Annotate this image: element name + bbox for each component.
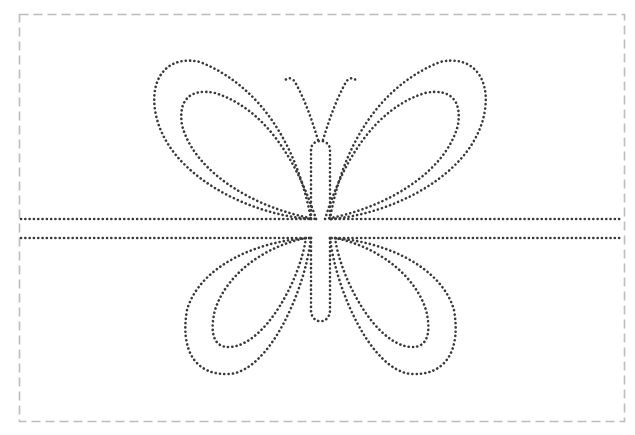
- lower-right-wing-inner: [335, 238, 428, 347]
- lower-left-wing-inner: [213, 238, 306, 347]
- lower-left-wing-outer: [185, 238, 311, 374]
- upper-left-wing-outer: [154, 61, 311, 219]
- left-antenna: [285, 78, 318, 140]
- butterfly-body-upper: [311, 141, 330, 219]
- lower-right-wing-outer: [330, 238, 456, 374]
- right-antenna: [323, 78, 356, 140]
- butterfly-body-lower: [311, 238, 330, 321]
- upper-right-wing-outer: [330, 61, 486, 219]
- guide-lines: [21, 219, 623, 238]
- upper-left-wing-inner: [181, 92, 316, 219]
- tracing-canvas: [0, 0, 635, 435]
- upper-right-wing-inner: [325, 92, 459, 219]
